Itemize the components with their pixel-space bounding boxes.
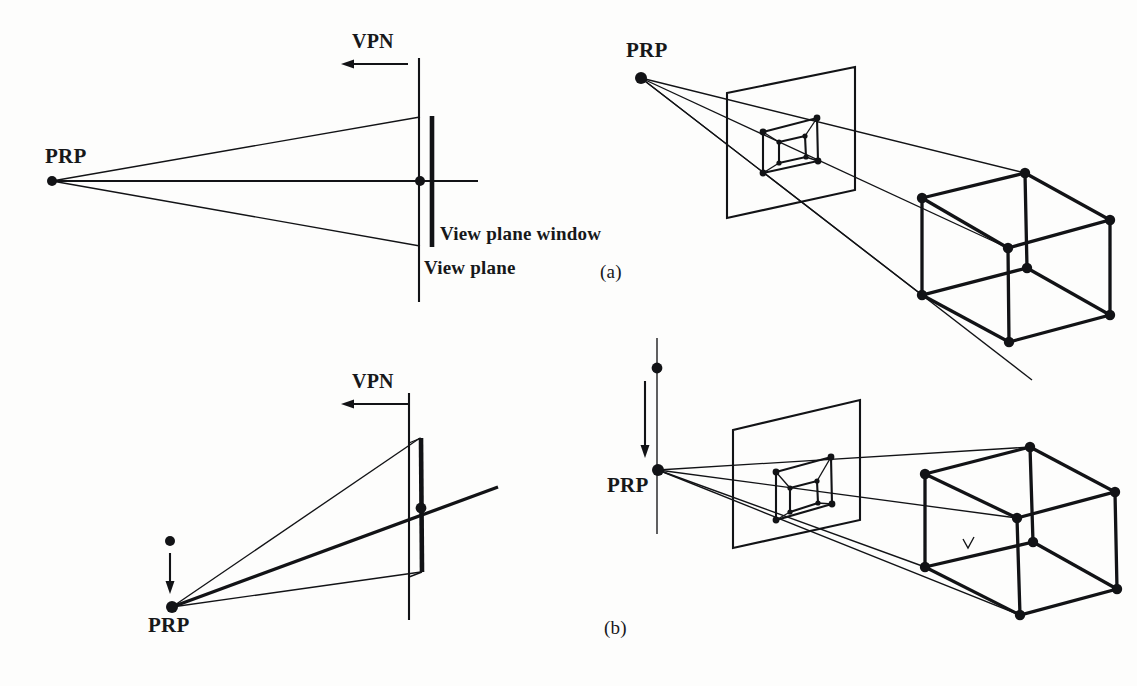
projector-ray-a-bottom xyxy=(52,181,420,246)
projected-cube-edges-a xyxy=(763,118,818,173)
projector-ray-b-top xyxy=(172,438,420,607)
prp-move-arrow-b3d xyxy=(641,381,650,458)
window-centre-dot-a xyxy=(415,176,425,186)
panel-bottom-left-side-view xyxy=(165,393,498,620)
prp-original-dot-b3d xyxy=(652,363,663,374)
panel-bottom-right-perspective xyxy=(641,338,1123,620)
vpn-arrow-a xyxy=(341,60,408,69)
projected-cube-back-a xyxy=(779,136,806,163)
view-plane-quad-a xyxy=(727,67,855,218)
projected-cube-front-b xyxy=(776,457,832,520)
label-vpn-bottom-left: VPN xyxy=(352,370,394,393)
label-view-plane: View plane xyxy=(424,257,516,279)
label-part-a: (a) xyxy=(600,261,622,283)
label-prp-bottom-left: PRP xyxy=(148,613,189,638)
figure-canvas xyxy=(0,0,1137,686)
projected-cube-front-a xyxy=(763,118,818,173)
figure-root: PRP VPN View plane window View plane PRP… xyxy=(0,0,1137,686)
label-prp-top-left: PRP xyxy=(45,144,86,169)
panel-top-left-side-view xyxy=(47,58,478,302)
label-vpn-top-left: VPN xyxy=(352,30,394,53)
panel-top-right-perspective xyxy=(635,67,1115,380)
prp-dot-a3d xyxy=(635,72,647,84)
window-centre-dot-b xyxy=(416,503,427,514)
oblique-axis-b xyxy=(172,487,498,607)
vpn-arrow-b xyxy=(341,400,408,409)
prp-dot-b3d xyxy=(652,464,664,476)
projector-ray-b-bottom xyxy=(172,572,421,607)
prp-original-dot-b xyxy=(165,536,175,546)
label-prp-bottom-right: PRP xyxy=(607,473,648,498)
object-cube-near-face-a xyxy=(922,173,1027,295)
label-prp-top-right: PRP xyxy=(626,38,667,63)
label-view-plane-window: View plane window xyxy=(440,223,601,245)
object-cube-far-face-a xyxy=(1008,220,1110,342)
tick-annotation-b xyxy=(963,537,974,548)
projected-cube-edges-b xyxy=(776,457,832,520)
prp-move-arrow-b xyxy=(166,553,175,594)
projector-ray-a-top xyxy=(52,117,420,181)
projector-rays-b xyxy=(658,447,1030,615)
prp-dot-b xyxy=(166,601,178,613)
object-cube-connect-edges-b xyxy=(925,447,1117,615)
prp-dot-a xyxy=(47,176,57,186)
label-part-b: (b) xyxy=(604,617,627,639)
projected-cube-back-b xyxy=(790,481,818,512)
